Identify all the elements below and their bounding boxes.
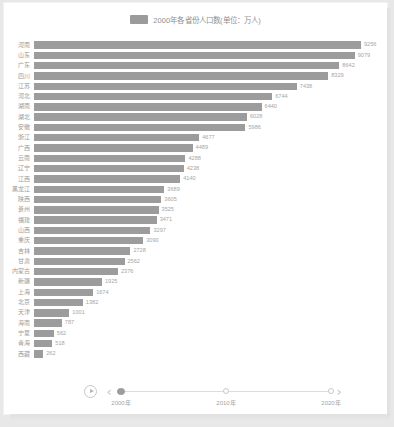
chart-bar-row[interactable]: 上海1674 bbox=[4, 287, 387, 297]
bar-category-label: 天津 bbox=[4, 309, 30, 316]
bar[interactable] bbox=[34, 340, 52, 347]
bar-category-label: 河南 bbox=[4, 42, 30, 49]
bar[interactable] bbox=[34, 258, 125, 265]
bar-category-label: 福建 bbox=[4, 217, 30, 224]
chart-bar-row[interactable]: 河北6744 bbox=[4, 91, 387, 101]
bar[interactable] bbox=[34, 196, 161, 203]
chart-bar-row[interactable]: 辽宁4238 bbox=[4, 164, 387, 174]
bar[interactable] bbox=[34, 62, 339, 69]
chart-plot-area: 河南9256山东9079广东8642四川8329江苏7438河北6744湖南64… bbox=[4, 40, 387, 378]
bar[interactable] bbox=[34, 144, 193, 151]
bar[interactable] bbox=[34, 165, 184, 172]
bar-value-label: 4489 bbox=[193, 144, 208, 151]
bar[interactable] bbox=[34, 134, 199, 141]
timeline-tick-label[interactable]: 2020年 bbox=[321, 398, 340, 407]
chart-bar-row[interactable]: 山东9079 bbox=[4, 50, 387, 60]
chart-bar-row[interactable]: 云南4288 bbox=[4, 153, 387, 163]
timeline-tick-label[interactable]: 2000年 bbox=[111, 398, 130, 407]
chart-legend[interactable]: 2000年各省份人口数(单位：万人) bbox=[4, 14, 387, 25]
chevron-left-icon[interactable]: ‹ bbox=[104, 385, 114, 398]
bar[interactable] bbox=[34, 93, 272, 100]
chart-bar-row[interactable]: 湖北6028 bbox=[4, 112, 387, 122]
chart-bar-row[interactable]: 河南9256 bbox=[4, 40, 387, 50]
chart-bar-row[interactable]: 青海518 bbox=[4, 339, 387, 349]
bar-value-label: 787 bbox=[62, 319, 74, 326]
chart-bar-row[interactable]: 四川8329 bbox=[4, 71, 387, 81]
bar[interactable] bbox=[34, 186, 164, 193]
chart-bar-row[interactable]: 新疆1925 bbox=[4, 277, 387, 287]
chart-bar-row[interactable]: 湖南6440 bbox=[4, 102, 387, 112]
bar[interactable] bbox=[34, 350, 43, 357]
timeline-tick-label[interactable]: 2010年 bbox=[216, 398, 235, 407]
chart-bar-row[interactable]: 西藏262 bbox=[4, 349, 387, 359]
bar[interactable] bbox=[34, 330, 54, 337]
bar-category-label: 上海 bbox=[4, 289, 30, 296]
bar-track: 8642 bbox=[34, 61, 383, 71]
chart-bar-row[interactable]: 天津1001 bbox=[4, 308, 387, 318]
bar-track: 3525 bbox=[34, 205, 383, 215]
bar[interactable] bbox=[34, 278, 102, 285]
bar-value-label: 3090 bbox=[143, 237, 158, 244]
bar-value-label: 3471 bbox=[157, 216, 172, 223]
bar[interactable] bbox=[34, 52, 355, 59]
timeline-node-2010年[interactable] bbox=[223, 388, 229, 394]
bar-track: 3605 bbox=[34, 194, 383, 204]
chart-bar-row[interactable]: 贵州3525 bbox=[4, 205, 387, 215]
bar-category-label: 湖南 bbox=[4, 103, 30, 110]
chart-bar-row[interactable]: 重庆3090 bbox=[4, 236, 387, 246]
bar-track: 6028 bbox=[34, 112, 383, 122]
bar-value-label: 3525 bbox=[159, 206, 174, 213]
bar[interactable] bbox=[34, 83, 297, 90]
bar-value-label: 9256 bbox=[361, 41, 376, 48]
bar-category-label: 海南 bbox=[4, 320, 30, 327]
bar[interactable] bbox=[34, 319, 62, 326]
timeline-node-2000年[interactable] bbox=[117, 388, 124, 395]
bar-race-chart-app: 2000年各省份人口数(单位：万人) 河南9256山东9079广东8642四川8… bbox=[0, 0, 394, 427]
chart-bar-row[interactable]: 黑龙江3689 bbox=[4, 184, 387, 194]
chevron-right-icon[interactable]: › bbox=[334, 385, 344, 398]
bar-value-label: 6744 bbox=[272, 93, 287, 100]
chart-bar-row[interactable]: 广西4489 bbox=[4, 143, 387, 153]
bar[interactable] bbox=[34, 124, 245, 131]
bar-track: 787 bbox=[34, 318, 383, 328]
chart-bar-row[interactable]: 吉林2728 bbox=[4, 246, 387, 256]
bar[interactable] bbox=[34, 309, 69, 316]
bar-track: 1001 bbox=[34, 308, 383, 318]
chart-bar-row[interactable]: 江西4140 bbox=[4, 174, 387, 184]
bar[interactable] bbox=[34, 113, 247, 120]
bar[interactable] bbox=[34, 72, 328, 79]
bar[interactable] bbox=[34, 247, 130, 254]
chart-bar-row[interactable]: 安徽5986 bbox=[4, 122, 387, 132]
bar-value-label: 2376 bbox=[118, 268, 133, 275]
chart-bar-row[interactable]: 宁夏562 bbox=[4, 328, 387, 338]
chart-bar-row[interactable]: 江苏7438 bbox=[4, 81, 387, 91]
chart-bar-row[interactable]: 浙江4677 bbox=[4, 133, 387, 143]
bar[interactable] bbox=[34, 175, 180, 182]
chart-bar-row[interactable]: 海南787 bbox=[4, 318, 387, 328]
chart-bar-row[interactable]: 山西3297 bbox=[4, 225, 387, 235]
bar[interactable] bbox=[34, 216, 157, 223]
bar-track: 518 bbox=[34, 339, 383, 349]
bar-value-label: 2728 bbox=[130, 247, 145, 254]
timeline-control[interactable]: ‹ › 2000年2010年2020年 bbox=[4, 384, 387, 416]
bar-value-label: 3605 bbox=[161, 196, 176, 203]
bar[interactable] bbox=[34, 268, 118, 275]
bar[interactable] bbox=[34, 237, 143, 244]
bar-value-label: 3689 bbox=[164, 186, 179, 193]
chart-bar-row[interactable]: 内蒙古2376 bbox=[4, 267, 387, 277]
chart-bar-row[interactable]: 广东8642 bbox=[4, 61, 387, 71]
bar-value-label: 9079 bbox=[355, 52, 370, 59]
bar[interactable] bbox=[34, 227, 150, 234]
play-icon[interactable] bbox=[84, 385, 97, 398]
chart-bar-row[interactable]: 甘肃2562 bbox=[4, 256, 387, 266]
bar[interactable] bbox=[34, 41, 361, 48]
chart-bar-row[interactable]: 北京1382 bbox=[4, 297, 387, 307]
bar[interactable] bbox=[34, 299, 83, 306]
bar[interactable] bbox=[34, 155, 185, 162]
bar[interactable] bbox=[34, 103, 262, 110]
bar-value-label: 4140 bbox=[180, 175, 195, 182]
chart-bar-row[interactable]: 福建3471 bbox=[4, 215, 387, 225]
bar[interactable] bbox=[34, 289, 93, 296]
bar[interactable] bbox=[34, 206, 159, 213]
chart-bar-row[interactable]: 陕西3605 bbox=[4, 194, 387, 204]
